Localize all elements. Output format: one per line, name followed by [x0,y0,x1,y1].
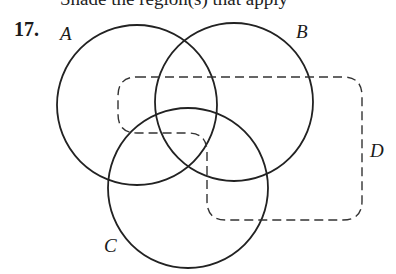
label-a: A [58,23,72,44]
label-d: D [369,140,384,161]
label-c: C [104,235,117,256]
problem-number: 17. [14,18,39,40]
venn-diagram: 17. A B C D [0,0,396,274]
set-a-circle [57,25,217,185]
set-b-circle [155,23,313,181]
set-c-circle [108,108,268,268]
label-b: B [296,21,308,42]
